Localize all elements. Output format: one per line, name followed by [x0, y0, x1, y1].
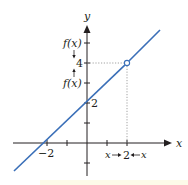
- fx-bottom-label: f(x): [62, 77, 82, 90]
- x-tick-label-two: 2: [123, 149, 130, 162]
- y-tick-label-four: 4: [76, 57, 83, 70]
- x-axis-label: x: [176, 137, 183, 150]
- y-axis-label: y: [83, 10, 91, 23]
- chart-svg: x −2 x 2 x y f(x) 4: [0, 0, 188, 185]
- open-point-hole: [124, 60, 129, 65]
- limit-graph-figure: x −2 x 2 x y f(x) 4: [0, 0, 188, 185]
- y-axis-arrow-icon: [84, 25, 91, 33]
- y-axis: y f(x) 4 f(x) 2: [62, 10, 98, 176]
- x-approach-right-label: x: [141, 149, 147, 160]
- y-tick-label-two: 2: [91, 97, 98, 110]
- fx-top-label: f(x): [62, 37, 82, 50]
- bottom-band: [40, 180, 188, 185]
- x-axis: x −2 x 2 x: [13, 137, 183, 162]
- x-approach-left-label: x: [105, 149, 111, 160]
- function-line-upper: [129, 30, 160, 61]
- x-tick-label-neg-two: −2: [38, 147, 54, 160]
- x-axis-arrow-icon: [164, 140, 172, 147]
